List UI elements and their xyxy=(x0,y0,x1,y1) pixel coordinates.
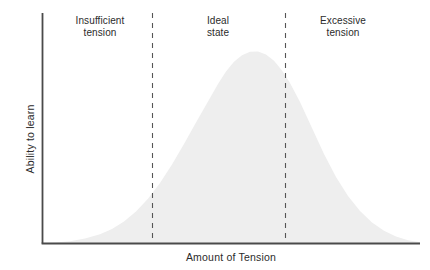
zone-label-excessive-tension: Excessive tension xyxy=(292,15,394,38)
x-axis-label: Amount of Tension xyxy=(42,251,420,263)
chart-plot-area xyxy=(0,0,430,270)
bell-curve-chart: Insufficient tension Ideal state Excessi… xyxy=(0,0,430,270)
bell-curve-area xyxy=(42,51,420,243)
zone-label-insufficient-tension: Insufficient tension xyxy=(52,15,148,38)
zone-label-ideal-state: Ideal state xyxy=(170,15,266,38)
y-axis-label: Ability to learn xyxy=(24,84,36,194)
